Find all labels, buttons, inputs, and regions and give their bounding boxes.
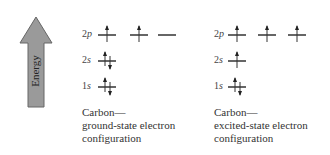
ground-orbitals — [96, 22, 206, 102]
level-label-2p: 2p — [214, 28, 224, 39]
level-label-1s: 1s — [82, 80, 91, 91]
level-label-1s: 1s — [214, 80, 223, 91]
level-label-2s: 2s — [214, 54, 223, 65]
level-label-2p: 2p — [82, 28, 92, 39]
excited-state-caption: Carbon— excited-state electron configura… — [214, 106, 308, 145]
ground-state-caption: Carbon— ground-state electron configurat… — [82, 106, 175, 145]
excited-orbitals — [226, 22, 330, 102]
energy-axis-label: Energy — [29, 51, 43, 91]
level-label-2s: 2s — [82, 54, 91, 65]
